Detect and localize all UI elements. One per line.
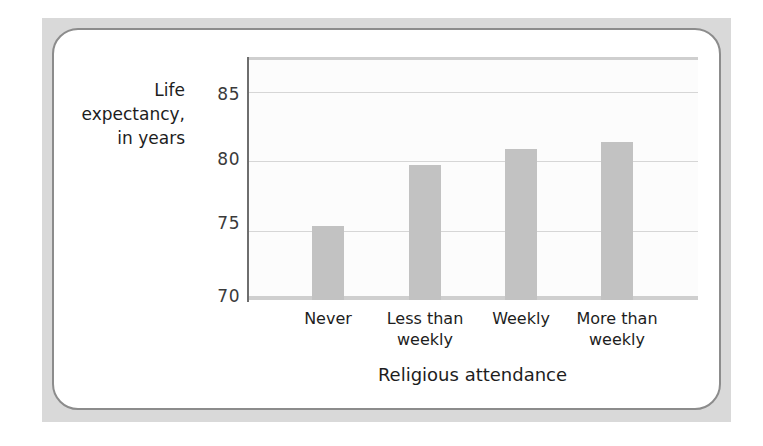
x-tick-label-more-than-weekly-line-1: More than bbox=[557, 308, 677, 329]
plot-top-rule bbox=[247, 57, 698, 60]
x-tick-label-more-than-weekly-line-2: weekly bbox=[557, 329, 677, 350]
bar-less-than-weekly[interactable] bbox=[409, 165, 441, 300]
x-tick-label-less-than-weekly-line-2: weekly bbox=[365, 329, 485, 350]
bar-more-than-weekly[interactable] bbox=[601, 142, 633, 300]
y-tick-label-70: 70 bbox=[196, 286, 240, 306]
gridline-85 bbox=[247, 92, 698, 93]
bar-weekly[interactable] bbox=[505, 149, 537, 300]
y-axis-title-line-3: in years bbox=[60, 126, 185, 150]
page-root: 85 80 75 70 Life expectancy, in years Ne… bbox=[0, 0, 763, 446]
bar-chart: 85 80 75 70 Life expectancy, in years Ne… bbox=[0, 0, 763, 446]
y-axis-title-line-1: Life bbox=[60, 78, 185, 102]
x-axis-title: Religious attendance bbox=[247, 364, 698, 385]
y-axis-title: Life expectancy, in years bbox=[60, 78, 185, 150]
y-axis-line bbox=[247, 57, 249, 302]
y-tick-label-75: 75 bbox=[196, 213, 240, 233]
x-tick-label-more-than-weekly: More than weekly bbox=[557, 308, 677, 350]
y-axis-title-line-2: expectancy, bbox=[60, 102, 185, 126]
y-tick-label-85: 85 bbox=[196, 84, 240, 104]
bar-never[interactable] bbox=[312, 226, 344, 300]
y-tick-label-80: 80 bbox=[196, 149, 240, 169]
